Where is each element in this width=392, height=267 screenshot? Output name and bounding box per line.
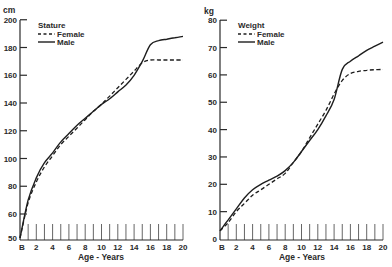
- x-tick-label: 12: [113, 243, 122, 252]
- stature-legend-male: Male: [57, 38, 75, 47]
- y-tick-label: 180: [4, 44, 18, 53]
- x-tick-label: 18: [362, 243, 371, 252]
- x-tick-label: 4: [50, 243, 55, 252]
- weight-unit-label: kg: [204, 6, 214, 16]
- y-tick-label: 40: [208, 126, 217, 135]
- x-tick-label: 2: [34, 243, 39, 252]
- growth-charts-canvas: cm 506080100120140160180200 B24681012141…: [0, 0, 392, 267]
- weight-x-axis-ticks: B2468101214161820: [219, 224, 388, 252]
- stature-legend: Stature Female Male: [38, 21, 85, 47]
- y-tick-label: 160: [4, 71, 18, 80]
- weight-legend: Weight Female Male: [238, 21, 285, 47]
- stature-chart: cm 506080100120140160180200 B24681012141…: [3, 5, 188, 262]
- weight-male-line: [220, 42, 383, 231]
- stature-x-axis-ticks: B2468101214161820: [19, 224, 188, 252]
- stature-unit-label: cm: [3, 5, 16, 15]
- stature-male-line: [20, 36, 183, 238]
- y-tick-label: 10: [208, 208, 217, 217]
- x-tick-label: 20: [179, 243, 188, 252]
- x-tick-label: 14: [130, 243, 139, 252]
- y-tick-label: 50: [208, 98, 217, 107]
- x-tick-label: 16: [346, 243, 355, 252]
- x-tick-label: 6: [267, 243, 272, 252]
- x-tick-label: 20: [379, 243, 388, 252]
- y-tick-label: 50: [8, 234, 17, 243]
- y-tick-label: 100: [4, 155, 18, 164]
- x-tick-label: B: [219, 243, 225, 252]
- y-tick-label: 80: [208, 16, 217, 25]
- x-tick-label: B: [19, 243, 25, 252]
- x-tick-label: 8: [283, 243, 288, 252]
- y-tick-label: 60: [8, 210, 17, 219]
- x-tick-label: 4: [250, 243, 255, 252]
- stature-legend-title: Stature: [38, 21, 66, 30]
- y-tick-label: 80: [8, 182, 17, 191]
- x-tick-label: 6: [67, 243, 72, 252]
- weight-legend-male: Male: [257, 38, 275, 47]
- y-tick-label: 120: [4, 127, 18, 136]
- y-tick-label: 0: [213, 235, 218, 244]
- y-tick-label: 60: [208, 71, 217, 80]
- weight-x-axis-label: Age - Years: [279, 252, 325, 262]
- x-tick-label: 12: [313, 243, 322, 252]
- x-tick-label: 2: [234, 243, 239, 252]
- weight-chart: kg 01020304050607080 B2468101214161820 W…: [204, 6, 388, 262]
- x-tick-label: 18: [162, 243, 171, 252]
- x-tick-label: 14: [330, 243, 339, 252]
- y-tick-label: 30: [208, 153, 217, 162]
- y-tick-label: 140: [4, 99, 18, 108]
- weight-legend-title: Weight: [238, 21, 265, 30]
- x-tick-label: 10: [297, 243, 306, 252]
- x-tick-label: 10: [97, 243, 106, 252]
- x-tick-label: 8: [83, 243, 88, 252]
- weight-female-line: [220, 69, 383, 230]
- x-tick-label: 16: [146, 243, 155, 252]
- y-tick-label: 200: [4, 16, 18, 25]
- stature-female-line: [20, 60, 183, 238]
- growth-charts: cm 506080100120140160180200 B24681012141…: [0, 0, 392, 267]
- y-tick-label: 20: [208, 180, 217, 189]
- y-tick-label: 70: [208, 44, 217, 53]
- stature-x-axis-label: Age - Years: [78, 252, 124, 262]
- stature-y-axis-ticks: 506080100120140160180200: [4, 16, 27, 243]
- weight-y-axis-ticks: 01020304050607080: [208, 16, 227, 244]
